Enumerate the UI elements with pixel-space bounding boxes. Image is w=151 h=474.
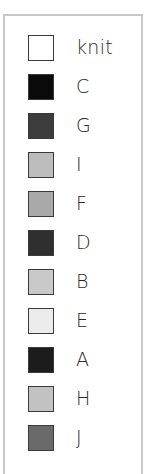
color-swatch-d: [28, 230, 54, 256]
color-swatch-h: [28, 386, 54, 412]
legend-item-knit: knit: [28, 34, 138, 61]
legend-item-a: A: [28, 346, 138, 373]
color-swatch-c: [28, 74, 54, 100]
legend-label: E: [76, 311, 88, 330]
color-swatch-f: [28, 191, 54, 217]
color-swatch-b: [28, 269, 54, 295]
legend-item-h: H: [28, 385, 138, 412]
legend-label: A: [76, 350, 89, 369]
color-swatch-j: [28, 425, 54, 451]
legend-item-c: C: [28, 73, 138, 100]
legend-item-j: J: [28, 424, 138, 451]
legend-label: D: [76, 233, 91, 252]
legend-item-g: G: [28, 112, 138, 139]
legend-label: G: [76, 116, 91, 135]
legend-label: I: [76, 155, 82, 174]
color-swatch-knit: [28, 35, 54, 61]
legend-item-e: E: [28, 307, 138, 334]
color-swatch-a: [28, 347, 54, 373]
legend-label: H: [76, 389, 91, 408]
legend-item-b: B: [28, 268, 138, 295]
legend-item-i: I: [28, 151, 138, 178]
color-swatch-i: [28, 152, 54, 178]
color-swatch-e: [28, 308, 54, 334]
color-swatch-g: [28, 113, 54, 139]
legend-item-d: D: [28, 229, 138, 256]
legend-label: B: [76, 272, 89, 291]
legend-label: C: [76, 77, 90, 96]
legend-label: knit: [76, 38, 113, 57]
legend-label: F: [76, 194, 87, 213]
legend-label: J: [76, 428, 82, 447]
legend-item-f: F: [28, 190, 138, 217]
